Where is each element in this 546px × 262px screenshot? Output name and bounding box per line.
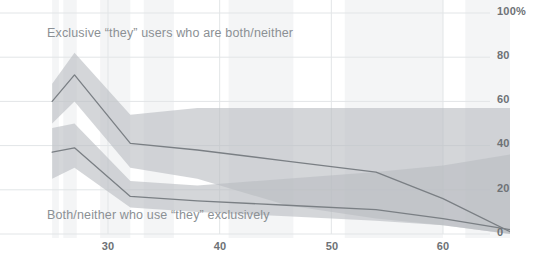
y-tick-label-60: 60 <box>497 93 510 105</box>
y-tick-label-0: 0 <box>497 226 503 238</box>
y-tick-label-20: 20 <box>497 182 510 194</box>
x-tick-label-60: 60 <box>437 240 450 252</box>
x-tick-label-30: 30 <box>102 240 115 252</box>
y-tick-label-80: 80 <box>497 49 510 61</box>
series-annotation-upper: Exclusive “they” users who are both/neit… <box>47 26 293 40</box>
x-tick-label-50: 50 <box>326 240 339 252</box>
chart-container: 100% 80 60 40 20 0 30 40 50 60 Exclusive… <box>0 0 546 262</box>
x-tick-label-40: 40 <box>214 240 227 252</box>
y-tick-label-40: 40 <box>497 137 510 149</box>
y-tick-label-100: 100% <box>497 5 526 17</box>
series-annotation-lower: Both/neither who use “they” exclusively <box>47 208 270 222</box>
